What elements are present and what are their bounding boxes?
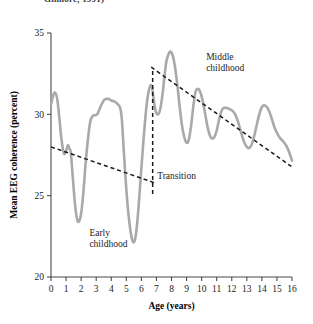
x-tick-label: 4 [109,284,114,294]
x-tick-label: 6 [139,284,144,294]
y-tick-label: 25 [35,191,45,201]
x-tick-label: 15 [272,284,282,294]
x-tick-label: 16 [287,284,297,294]
line-chart: 20253035012345678910111213141516 Earlych… [0,0,313,324]
data-series [51,52,292,243]
annotation-label: Middle [206,52,233,62]
x-tick-label: 10 [197,284,207,294]
y-tick-label: 35 [35,28,45,38]
x-tick-label: 13 [242,284,252,294]
x-tick-label: 3 [94,284,99,294]
annotation-label: childhood [206,63,244,73]
x-tick-label: 8 [169,284,174,294]
annotation-transition: Transition [157,171,196,181]
trend-lines [51,67,291,182]
annotation-middle-childhood: Middlechildhood [206,52,244,73]
annotations: EarlychildhoodTransitionMiddlechildhood [89,52,244,249]
x-tick-label: 2 [79,284,84,294]
data-line [51,52,292,243]
x-tick-label: 5 [124,284,129,294]
x-axis-title: Age (years) [148,301,194,312]
annotation-label: childhood [89,239,127,249]
y-axis-title: Mean EEG coherence (percent) [9,91,20,219]
x-tick-label: 11 [212,284,221,294]
y-tick-label: 30 [35,110,45,120]
x-tick-label: 0 [49,284,54,294]
figure-caption-cropped: Gilmore, 1991) [44,0,104,4]
x-tick-label: 1 [64,284,69,294]
annotation-label: Transition [157,171,196,181]
x-tick-label: 7 [154,284,159,294]
x-tick-label: 14 [257,284,267,294]
eeg-coherence-figure: Gilmore, 1991) 2025303501234567891011121… [0,0,313,324]
early-childhood-trend [51,147,154,183]
x-tick-label: 12 [227,284,237,294]
y-tick-label: 20 [35,272,45,282]
x-tick-label: 9 [184,284,189,294]
annotation-early-childhood: Earlychildhood [89,228,127,249]
annotation-label: Early [89,228,110,238]
axes [47,33,292,281]
